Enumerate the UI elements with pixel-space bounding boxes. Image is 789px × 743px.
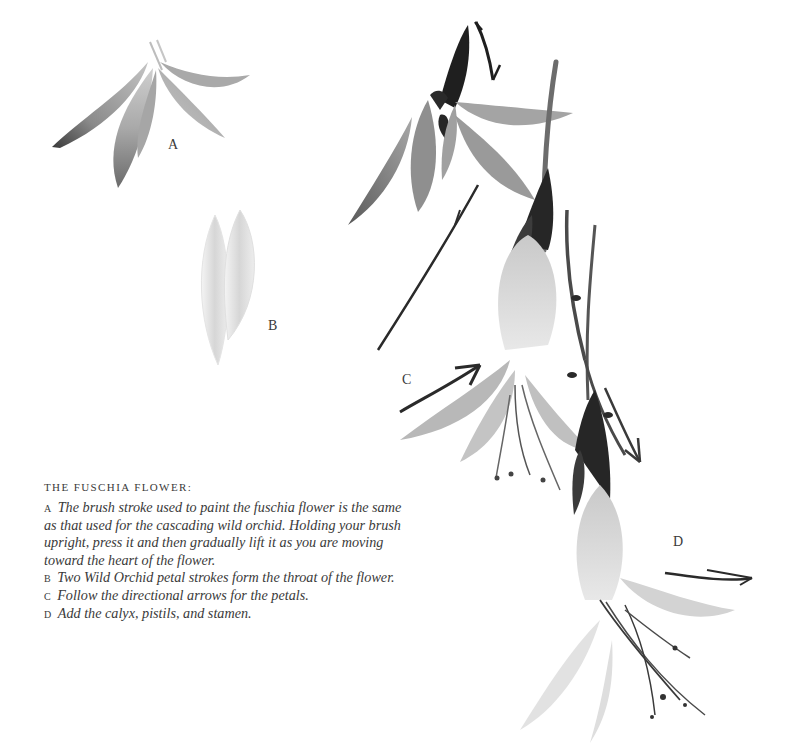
caption-step-c: CFollow the directional arrows for the p… (44, 587, 404, 605)
figure-label-d: D (673, 534, 684, 550)
caption-steps-list: AThe brush stroke used to paint the fusc… (44, 499, 404, 623)
figure-b-throat-strokes (201, 210, 254, 365)
caption-step-b: BTwo Wild Orchid petal strokes form the … (44, 569, 404, 587)
figure-label-b: B (268, 318, 278, 334)
step-text: Two Wild Orchid petal strokes form the t… (57, 569, 394, 585)
figure-label-c: C (402, 372, 412, 388)
step-letter: C (44, 591, 51, 602)
fuschia-painting-illustration (0, 0, 789, 743)
step-text: The brush stroke used to paint the fusch… (44, 499, 401, 568)
lower-fuschia-flower (520, 390, 752, 743)
caption-title: The Fuschia Flower: (44, 481, 404, 493)
book-page: A B C D The Fuschia Flower: AThe brush s… (0, 0, 789, 743)
caption-step-d: DAdd the calyx, pistils, and stamen. (44, 605, 404, 623)
figure-caption: The Fuschia Flower: AThe brush stroke us… (44, 481, 404, 623)
step-text: Add the calyx, pistils, and stamen. (58, 605, 252, 621)
figure-label-a: A (168, 137, 179, 153)
step-letter: D (44, 609, 52, 620)
step-letter: B (44, 573, 51, 584)
step-text: Follow the directional arrows for the pe… (57, 587, 309, 603)
middle-fuschia-flower (400, 168, 590, 490)
figure-a-petal-strokes (52, 40, 250, 188)
step-letter: A (44, 503, 52, 514)
caption-step-a: AThe brush stroke used to paint the fusc… (44, 499, 404, 569)
